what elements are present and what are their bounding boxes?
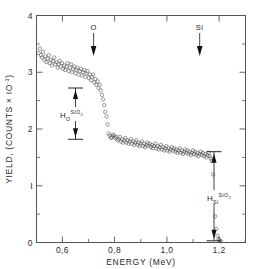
annotation-height-oxygen: HOSiO2 bbox=[58, 88, 92, 139]
data-point bbox=[216, 234, 219, 237]
y-tick-label-1: I bbox=[30, 181, 33, 191]
data-point bbox=[68, 66, 71, 69]
data-point-group bbox=[37, 47, 223, 243]
h-oxygen-arrow-head-up-icon bbox=[73, 90, 78, 99]
y-tick-label-0: 0 bbox=[28, 238, 33, 248]
data-point bbox=[84, 75, 87, 78]
data-point bbox=[104, 110, 107, 113]
oxygen-arrow-head-icon bbox=[91, 46, 97, 56]
data-point bbox=[50, 64, 53, 67]
data-point bbox=[88, 73, 91, 76]
data-point bbox=[96, 80, 99, 83]
data-point bbox=[80, 74, 83, 77]
data-point bbox=[101, 98, 104, 101]
y-axis: 0 I 2 3 4 bbox=[28, 11, 246, 248]
data-point bbox=[105, 115, 108, 118]
oxygen-edge-label: O bbox=[90, 23, 96, 32]
y-axis-title-main: YIELD, (COUNTS × IO bbox=[4, 84, 14, 184]
y-axis-title: YIELD, (COUNTS × IO-3) bbox=[4, 74, 14, 184]
x-tick-label-1-0: 1,0 bbox=[160, 245, 173, 255]
data-point bbox=[97, 86, 100, 89]
x-tick-label-0-8: 0,8 bbox=[108, 245, 121, 255]
x-tick-label-1-2: 1,2 bbox=[213, 245, 226, 255]
x-axis-title: ENERGY (MeV) bbox=[106, 257, 176, 267]
silicon-edge-label: Si bbox=[196, 23, 204, 32]
annotation-height-silicon: HSiSiO2 bbox=[205, 152, 241, 241]
y-tick-label-4: 4 bbox=[28, 11, 33, 21]
y-axis-title-close: ) bbox=[4, 74, 14, 78]
data-point bbox=[106, 123, 109, 126]
data-point bbox=[46, 57, 49, 60]
data-point bbox=[70, 71, 73, 74]
y-tick-label-2: 2 bbox=[28, 124, 33, 134]
data-point bbox=[41, 50, 44, 53]
y-tick-label-3: 3 bbox=[28, 67, 33, 77]
data-point bbox=[93, 81, 96, 84]
data-point bbox=[89, 78, 92, 81]
h-silicon-label-sup: SiO bbox=[218, 192, 228, 198]
chart-canvas: 0 I 2 3 4 0,6 0,8 1,0 1,2 EN bbox=[0, 0, 256, 269]
data-point bbox=[47, 54, 50, 57]
rbs-spectrum-figure: 0 I 2 3 4 0,6 0,8 1,0 1,2 EN bbox=[0, 0, 256, 269]
y-axis-title-group: YIELD, (COUNTS × IO-3) bbox=[4, 74, 14, 184]
data-point bbox=[53, 56, 56, 59]
data-point bbox=[100, 93, 103, 96]
h-silicon-arrow-head-down-icon bbox=[211, 230, 216, 239]
h-oxygen-label-sup: SiO bbox=[71, 109, 81, 115]
data-point bbox=[102, 103, 105, 106]
data-point bbox=[69, 63, 72, 66]
x-tick-label-0-6: 0,6 bbox=[56, 245, 69, 255]
silicon-arrow-head-icon bbox=[197, 46, 203, 56]
data-point bbox=[45, 60, 48, 63]
data-point bbox=[98, 83, 101, 86]
data-point bbox=[67, 69, 70, 72]
data-point bbox=[66, 61, 69, 64]
data-point bbox=[99, 89, 102, 92]
data-point bbox=[60, 61, 63, 64]
annotation-oxygen-edge: O bbox=[90, 23, 96, 56]
h-silicon-label-sub: Si bbox=[213, 199, 218, 205]
data-point bbox=[77, 73, 80, 76]
data-point bbox=[44, 55, 47, 58]
data-point bbox=[38, 47, 41, 50]
h-oxygen-label-sub: O bbox=[66, 116, 71, 122]
h-oxygen-arrow-head-down-icon bbox=[73, 128, 78, 137]
data-point bbox=[48, 61, 51, 64]
data-point bbox=[57, 63, 60, 66]
annotation-silicon-edge: Si bbox=[196, 23, 204, 56]
data-point bbox=[95, 83, 98, 86]
